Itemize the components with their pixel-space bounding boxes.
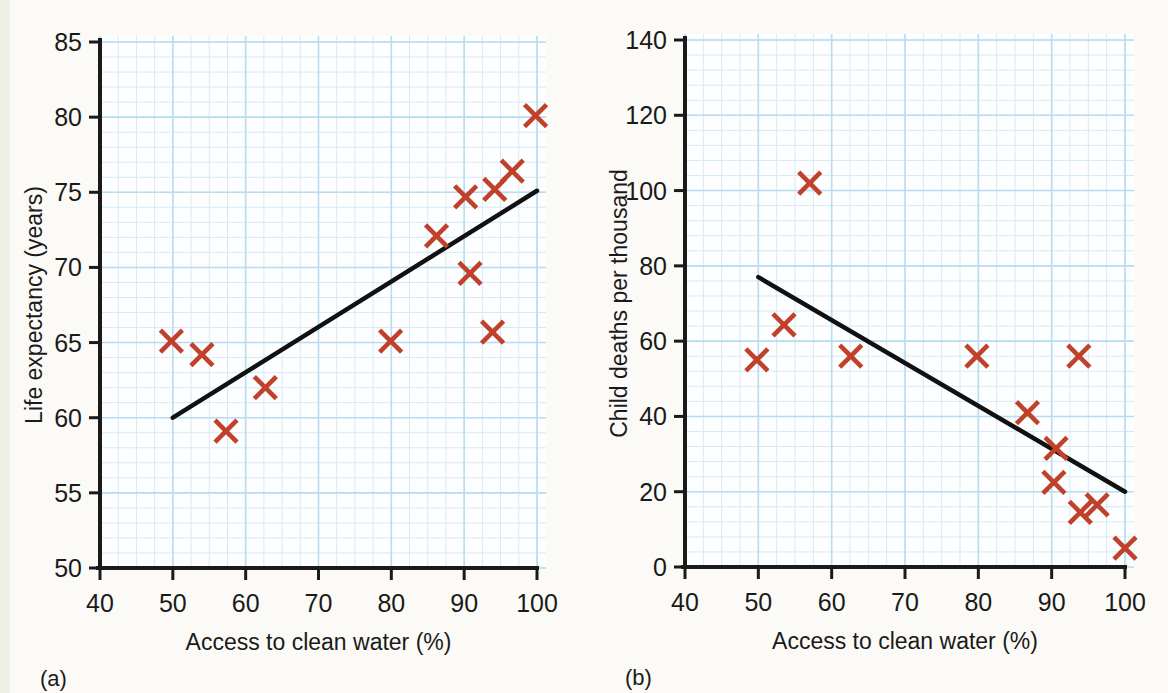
x-axis-tick-label: 40 [86, 589, 114, 617]
x-axis-tick-label: 90 [450, 589, 478, 617]
x-axis-tick-label: 70 [305, 589, 333, 617]
x-axis-tick-label: 80 [377, 589, 405, 617]
x-axis-tick-label: 80 [964, 588, 992, 616]
y-axis-tick-label: 0 [653, 553, 667, 581]
y-axis-tick-label: 75 [54, 178, 82, 206]
figure-page: 5055606570758085405060708090100Access to… [0, 0, 1168, 693]
y-axis-title: Child deaths per thousand [606, 169, 632, 438]
y-axis-title: Life expectancy (years) [21, 186, 47, 424]
plot-background [685, 34, 1134, 567]
y-axis-tick-label: 60 [54, 404, 82, 432]
panel-label: (b) [625, 665, 652, 690]
y-axis-tick-label: 55 [54, 479, 82, 507]
y-axis-tick-label: 20 [639, 478, 667, 506]
x-axis-tick-label: 60 [818, 588, 846, 616]
x-axis-tick-label: 90 [1038, 588, 1066, 616]
y-axis-tick-label: 65 [54, 329, 82, 357]
panel-label: (a) [40, 666, 67, 691]
y-axis-tick-label: 60 [639, 327, 667, 355]
y-axis-tick-label: 70 [54, 253, 82, 281]
y-axis-tick-label: 80 [639, 252, 667, 280]
plot-background [100, 36, 546, 568]
x-axis-tick-label: 40 [671, 588, 699, 616]
scatter-chart-b: 020406080100120140405060708090100Access … [584, 0, 1168, 693]
chart-panel-b: 020406080100120140405060708090100Access … [584, 0, 1168, 693]
x-axis-tick-label: 60 [232, 589, 260, 617]
chart-panel-a: 5055606570758085405060708090100Access to… [0, 0, 584, 693]
y-axis-tick-label: 85 [54, 28, 82, 56]
y-axis-tick-label: 140 [625, 26, 667, 54]
y-axis-tick-label: 40 [639, 402, 667, 430]
y-axis-tick-label: 80 [54, 103, 82, 131]
x-axis-tick-label: 100 [1104, 588, 1146, 616]
x-axis-tick-label: 50 [159, 589, 187, 617]
x-axis-tick-label: 100 [516, 589, 558, 617]
x-axis-title: Access to clean water (%) [186, 629, 452, 655]
x-axis-tick-label: 50 [744, 588, 772, 616]
x-axis-title: Access to clean water (%) [772, 628, 1038, 654]
scatter-chart-a: 5055606570758085405060708090100Access to… [0, 0, 584, 693]
y-axis-tick-label: 50 [54, 554, 82, 582]
x-axis-tick-label: 70 [891, 588, 919, 616]
y-axis-tick-label: 120 [625, 101, 667, 129]
